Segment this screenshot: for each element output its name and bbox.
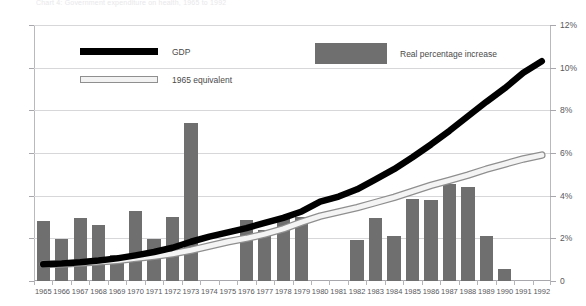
legend-swatch-equivalent-1965	[80, 76, 158, 83]
right-axis-tick-label: 4%	[560, 191, 586, 201]
gdp-line	[43, 61, 542, 264]
x-axis-tick-label: 1992	[530, 287, 554, 296]
legend-label-equivalent-1965: 1965 equivalent	[172, 75, 232, 85]
right-axis-tick-label: 6%	[560, 148, 586, 158]
equivalent-1965-line	[43, 155, 542, 264]
right-axis-tick-label: 8%	[560, 105, 586, 115]
legend-swatch-gdp	[80, 48, 158, 55]
legend-swatch-real-percentage-increase	[315, 43, 387, 64]
plot-area	[34, 25, 551, 281]
chart-figure: Chart 4: Government expenditure on healt…	[0, 0, 586, 306]
legend-label-gdp: GDP	[172, 47, 190, 57]
right-axis-tick-label: 12%	[560, 20, 586, 30]
line-series-group	[34, 25, 551, 281]
right-axis-tick-label: 10%	[560, 63, 586, 73]
equivalent-1965-line-outline	[43, 155, 542, 264]
legend-label-real-percentage-increase: Real percentage increase	[400, 49, 497, 59]
right-axis-tick-label: 0	[560, 276, 586, 286]
right-axis-tick-label: 2%	[560, 233, 586, 243]
figure-header-text: Chart 4: Government expenditure on healt…	[36, 0, 336, 10]
